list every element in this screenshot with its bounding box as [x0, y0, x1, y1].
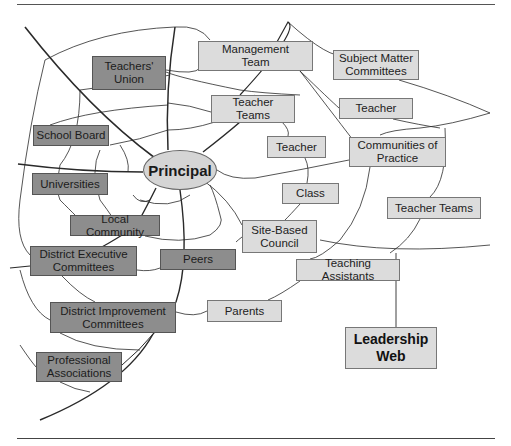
node-school-board: School Board: [33, 125, 109, 146]
node-teacher-mid: Teacher: [267, 136, 326, 158]
node-district-improvement-committees: District Improvement Committees: [50, 302, 176, 333]
node-teacher-right: Teacher: [339, 98, 413, 119]
node-district-executive-committees: District Executive Committees: [30, 246, 137, 276]
node-communities-of-practice: Communities of Practice: [349, 137, 446, 167]
leadership-web-title: Leadership Web: [345, 327, 437, 369]
node-peers: Peers: [160, 249, 236, 270]
node-site-based-council: Site-Based Council: [242, 220, 317, 253]
node-class: Class: [282, 183, 339, 204]
node-teaching-assistants: Teaching Assistants: [296, 259, 400, 281]
node-universities: Universities: [32, 173, 108, 195]
node-parents: Parents: [207, 300, 282, 322]
node-teacher-teams-right: Teacher Teams: [387, 197, 481, 219]
principal-label: Principal: [148, 162, 211, 179]
node-local-community: Local Community: [70, 215, 160, 236]
node-teachers-union: Teachers' Union: [92, 56, 166, 90]
principal-node: Principal: [143, 150, 217, 190]
node-management-team: Management Team: [198, 41, 313, 71]
node-professional-associations: Professional Associations: [36, 352, 122, 382]
bottom-rule: [17, 438, 495, 439]
node-subject-matter-committees: Subject Matter Committees: [333, 50, 419, 80]
node-teacher-teams-top: Teacher Teams: [211, 95, 295, 123]
